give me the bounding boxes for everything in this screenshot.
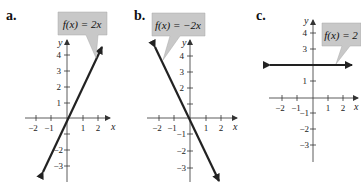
x-tick-label: 1 xyxy=(81,123,86,133)
function-callout: f(x) = 2 xyxy=(322,23,361,64)
x-tick-label: 1 xyxy=(326,103,331,113)
x-tick-label: −1 xyxy=(167,123,177,133)
y-tick-label: 1 xyxy=(57,98,62,108)
y-tick-label: 3 xyxy=(303,44,308,54)
y-tick-label: 3 xyxy=(57,66,62,76)
y-tick-label: −3 xyxy=(299,140,309,150)
function-label: f(x) = −2x xyxy=(155,19,201,32)
panel-c: c. −2 −1 1 2 x 4 3 1 −1 −2 −3 y f(x) = 2 xyxy=(256,8,361,162)
y-tick-label: 4 xyxy=(57,50,62,60)
function-label: f(x) = 2 xyxy=(324,29,358,42)
x-tick-label: 1 xyxy=(204,123,209,133)
y-tick-label: −1 xyxy=(176,129,186,139)
x-tick-label: 2 xyxy=(219,123,224,133)
x-tick-label: 2 xyxy=(341,103,346,113)
y-tick-label: 2 xyxy=(57,82,62,92)
panel-b: b. −2 −1 1 2 x 4 3 2 −1 −2 −3 y f(x) = −… xyxy=(134,8,238,182)
function-callout: f(x) = −2x xyxy=(152,13,205,60)
y-tick-label: 4 xyxy=(303,28,308,38)
x-tick-label: 2 xyxy=(96,123,101,133)
panel-label: c. xyxy=(256,8,266,23)
x-axis-label: x xyxy=(353,101,359,112)
y-tick-label: −2 xyxy=(299,124,309,134)
panel-label: b. xyxy=(134,8,145,23)
y-tick-label: −2 xyxy=(176,146,186,156)
x-axis-label: x xyxy=(110,121,116,132)
x-axis-label: x xyxy=(232,121,238,132)
y-tick-label: 4 xyxy=(180,51,185,61)
y-axis-label: y xyxy=(303,15,309,26)
y-axis-label: y xyxy=(57,37,63,48)
y-tick-label: 3 xyxy=(180,67,185,77)
panel-a: a. −2 −1 1 2 x 4 3 2 1 −2 −3 y f xyxy=(6,8,116,182)
x-tick-label: −1 xyxy=(44,123,54,133)
y-tick-label: −1 xyxy=(299,108,309,118)
y-tick-label: 1 xyxy=(303,76,308,86)
x-tick-label: −2 xyxy=(275,103,285,113)
function-line xyxy=(155,47,219,181)
linear-functions-figure: a. −2 −1 1 2 x 4 3 2 1 −2 −3 y f xyxy=(0,0,361,185)
y-axis-label: y xyxy=(181,37,187,48)
function-line xyxy=(43,47,102,172)
x-tick-label: −2 xyxy=(152,123,162,133)
y-tick-label: 2 xyxy=(180,83,185,93)
y-tick-label: −3 xyxy=(176,163,186,173)
panel-label: a. xyxy=(6,8,17,23)
y-tick-label: −3 xyxy=(53,161,63,171)
function-label: f(x) = 2x xyxy=(63,18,102,31)
x-tick-label: −2 xyxy=(28,123,38,133)
